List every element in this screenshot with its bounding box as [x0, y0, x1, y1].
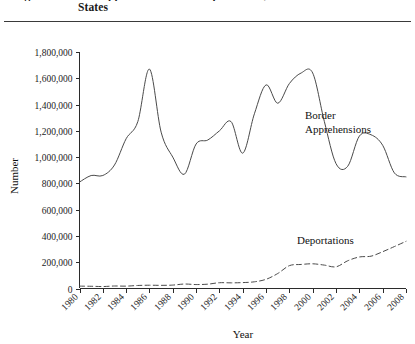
- y-axis-tick-labels: 0200,000400,000600,000800,0001,000,0001,…: [35, 48, 73, 295]
- figure-header: Figure 1. Border Apprehensions and Depor…: [0, 0, 415, 26]
- y-tick-label: 200,000: [42, 258, 73, 268]
- x-tick-label: 2000: [292, 292, 313, 313]
- y-tick-label: 1,800,000: [35, 48, 73, 58]
- x-tick-label: 1988: [152, 292, 173, 313]
- chart-canvas: 0200,000400,000600,000800,0001,000,0001,…: [0, 26, 415, 344]
- x-tick-label: 1982: [82, 292, 103, 313]
- y-tick-label: 400,000: [42, 232, 73, 242]
- x-tick-label: 1998: [268, 292, 289, 313]
- x-axis-ticks: [81, 289, 407, 293]
- x-tick-label: 1986: [128, 292, 149, 313]
- annotation-border-apprehensions-line2: Apprehensions: [305, 123, 371, 135]
- annotation-border-apprehensions-line1: Border: [305, 109, 336, 121]
- figure-title-line-1: Figure 1. Border Apprehensions and Depor…: [14, 0, 404, 1]
- y-axis-ticks: [76, 53, 80, 290]
- y-tick-label: 600,000: [42, 206, 73, 216]
- x-tick-label: 1984: [105, 292, 126, 313]
- y-tick-label: 1,600,000: [35, 74, 73, 84]
- x-axis-tick-labels: 1980198219841986198819901992199419961998…: [59, 292, 406, 313]
- series-line-deportations: [80, 241, 407, 286]
- y-tick-label: 800,000: [42, 179, 73, 189]
- x-tick-label: 1990: [175, 292, 196, 313]
- x-tick-label: 1996: [245, 292, 266, 313]
- x-tick-label: 2002: [315, 292, 336, 313]
- x-axis-title: Year: [233, 328, 254, 340]
- y-tick-label: 1,200,000: [35, 127, 73, 137]
- y-axis-title: Number: [8, 158, 20, 194]
- line-chart: 0200,000400,000600,000800,0001,000,0001,…: [0, 26, 415, 344]
- header-divider: [4, 21, 411, 22]
- x-tick-label: 1994: [222, 292, 243, 313]
- y-tick-label: 1,000,000: [35, 153, 73, 163]
- y-tick-label: 1,400,000: [35, 101, 73, 111]
- x-tick-label: 2004: [338, 292, 359, 313]
- x-tick-label: 2006: [362, 292, 383, 313]
- figure-title-line-2: States: [78, 1, 108, 13]
- x-tick-label: 2008: [385, 292, 406, 313]
- annotation-deportations: Deportations: [297, 234, 354, 246]
- x-tick-label: 1980: [59, 292, 80, 313]
- x-tick-label: 1992: [198, 292, 219, 313]
